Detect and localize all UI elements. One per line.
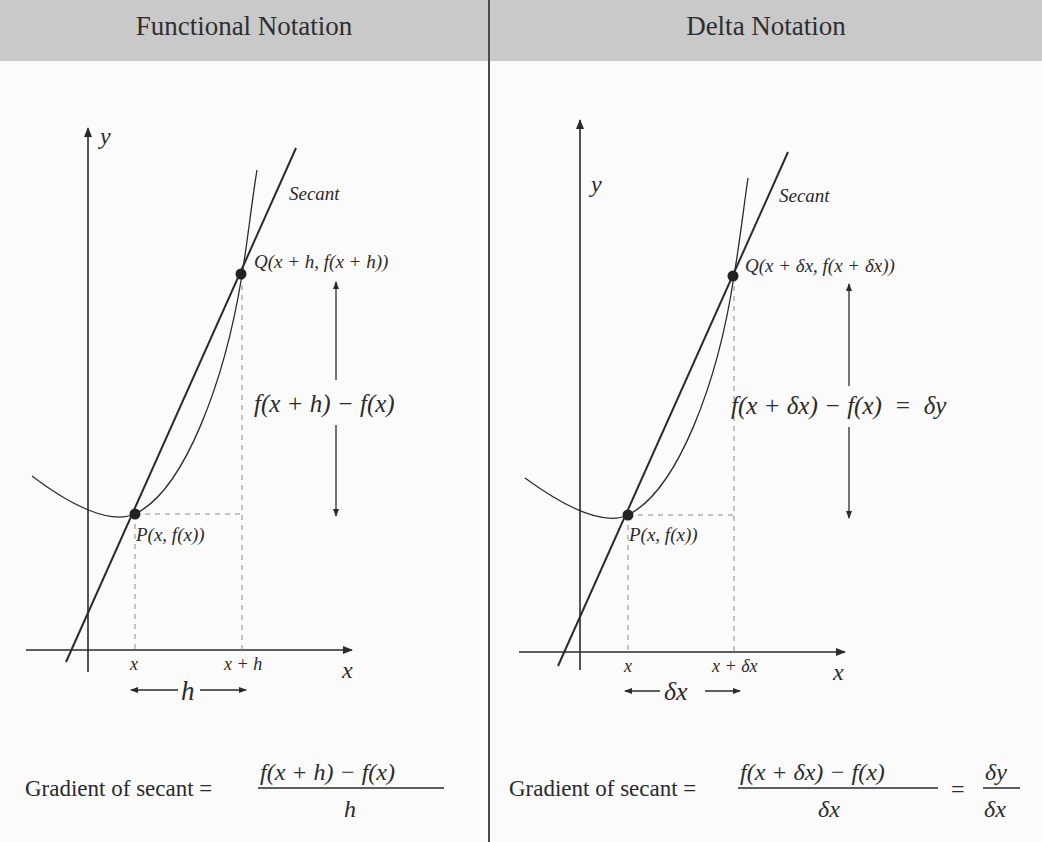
gradient-numerator: f(x + δx) − f(x) [740,759,885,785]
y-axis-label: y [589,171,602,197]
difference-label: f(x + h) − f(x) [254,390,395,418]
dashed-guides [135,275,242,650]
gradient-prefix: Gradient of secant = [509,776,696,801]
x-axis-label: x [832,659,844,685]
secant-label: Secant [779,185,830,206]
interval-label: h [181,676,195,706]
point-q [236,269,247,280]
gradient-prefix: Gradient of secant = [25,776,212,801]
function-curve [525,178,748,518]
tick-x-plus-h: x + h [223,654,262,674]
point-p [130,509,141,520]
delta-graph: y x Secant Q(x + δx, f(x + δx)) P(x, f(x… [509,120,1020,822]
point-p-label: P(x, f(x)) [135,524,205,546]
secant-label: Secant [289,183,340,204]
gradient-numerator: f(x + h) − f(x) [260,759,395,785]
functional-graph: y x Secant Q(x + h, f(x + h)) P(x, f(x))… [25,123,444,822]
tick-x: x [623,656,632,676]
interval-label: δx [664,677,688,706]
point-p [623,510,634,521]
tick-x-plus-dx: x + δx [711,656,758,676]
y-axis-label: y [98,123,111,149]
gradient2-denominator: δx [984,796,1006,822]
dashed-guides [628,276,734,652]
point-q-label: Q(x + h, f(x + h)) [254,251,388,273]
point-q-label: Q(x + δx, f(x + δx)) [745,255,895,277]
function-curve [32,170,257,517]
gradient-equals: = [951,776,965,802]
tick-x: x [129,654,138,674]
point-q [728,271,739,282]
point-p-label: P(x, f(x)) [628,524,698,546]
diagram-canvas: y x Secant Q(x + h, f(x + h)) P(x, f(x))… [0,0,1042,842]
x-axis-label: x [341,657,353,683]
gradient-denominator: δx [818,796,840,822]
gradient-denominator: h [344,796,356,822]
difference-label: f(x + δx) − f(x) = δy [731,392,947,420]
gradient2-numerator: δy [985,759,1007,785]
